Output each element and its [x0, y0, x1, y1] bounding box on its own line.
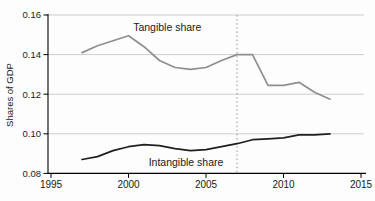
y-tick-label: 0.10 — [23, 128, 42, 139]
x-tick-label: 1995 — [40, 179, 63, 190]
series-line-tangible-share — [82, 36, 330, 99]
x-tick-label: 2010 — [272, 179, 295, 190]
y-tick-label: 0.12 — [23, 89, 42, 100]
y-tick-label: 0.08 — [23, 168, 42, 179]
series-label-tangible-share: Tangible share — [133, 21, 201, 33]
x-tick-label: 2015 — [350, 179, 373, 190]
y-axis-title: Shares of GDP — [4, 63, 15, 127]
line-chart: 0.160.140.120.100.0819952000200520102015… — [0, 0, 375, 201]
figure: 0.160.140.120.100.0819952000200520102015… — [0, 0, 375, 201]
series-label-intangible-share: Intangible share — [149, 156, 224, 168]
grid-layer — [48, 15, 364, 134]
y-tick-label: 0.14 — [23, 49, 42, 60]
y-tick-label: 0.16 — [23, 9, 42, 20]
x-tick-label: 2005 — [195, 179, 218, 190]
x-tick-label: 2000 — [117, 179, 140, 190]
